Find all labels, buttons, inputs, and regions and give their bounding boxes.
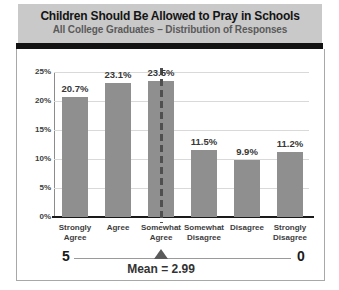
- x-axis-category-label: Somewhat Agree: [138, 223, 184, 243]
- chart-title: Children Should Be Allowed to Pray in Sc…: [18, 9, 322, 23]
- gridline: [54, 101, 309, 102]
- x-axis-category-label: Strongly Disagree: [267, 223, 313, 243]
- bar: [105, 83, 131, 217]
- bar: [277, 152, 303, 217]
- bar: [234, 160, 260, 217]
- bar: [191, 150, 217, 217]
- y-axis-tick-label: 0%: [19, 212, 51, 221]
- gridline: [54, 188, 309, 189]
- scale-line: [74, 258, 291, 259]
- bar-value-label: 9.9%: [223, 146, 271, 157]
- bar-value-label: 23.1%: [94, 69, 142, 80]
- x-axis-category-label: Disagree: [224, 223, 270, 233]
- x-axis-line: [52, 216, 314, 218]
- y-axis-tick-label: 5%: [19, 183, 51, 192]
- gridline: [54, 130, 309, 131]
- chart-area: 25%20%15%10%5%0%20.7%Strongly Agree23.1%…: [16, 49, 325, 281]
- figure: Children Should Be Allowed to Pray in Sc…: [0, 0, 339, 290]
- title-band: Children Should Be Allowed to Pray in Sc…: [18, 4, 322, 43]
- x-axis-category-label: Agree: [95, 223, 141, 233]
- bar-value-label: 11.5%: [180, 136, 228, 147]
- bar-value-label: 20.7%: [51, 83, 99, 94]
- scale-max-label: 5: [56, 248, 76, 264]
- bar-value-label: 11.2%: [266, 138, 314, 149]
- y-axis-tick-label: 20%: [19, 96, 51, 105]
- bar-plot: 25%20%15%10%5%0%20.7%Strongly Agree23.1%…: [17, 49, 324, 280]
- y-axis-tick-label: 15%: [19, 125, 51, 134]
- x-axis-category-label: Strongly Agree: [52, 223, 98, 243]
- bar: [62, 97, 88, 217]
- bar-value-label: 23.5%: [137, 67, 185, 78]
- y-axis-tick-label: 10%: [19, 154, 51, 163]
- mean-value-label: Mean = 2.99: [101, 262, 221, 276]
- scale-min-label: 0: [291, 248, 311, 264]
- y-axis-tick-label: 25%: [19, 67, 51, 76]
- gridline: [54, 159, 309, 160]
- chart-subtitle: All College Graduates – Distribution of …: [18, 24, 322, 35]
- mean-dashed-line: [160, 68, 163, 223]
- x-axis-category-label: Somewhat Disagree: [181, 223, 227, 243]
- mean-marker-triangle-icon: [154, 249, 168, 259]
